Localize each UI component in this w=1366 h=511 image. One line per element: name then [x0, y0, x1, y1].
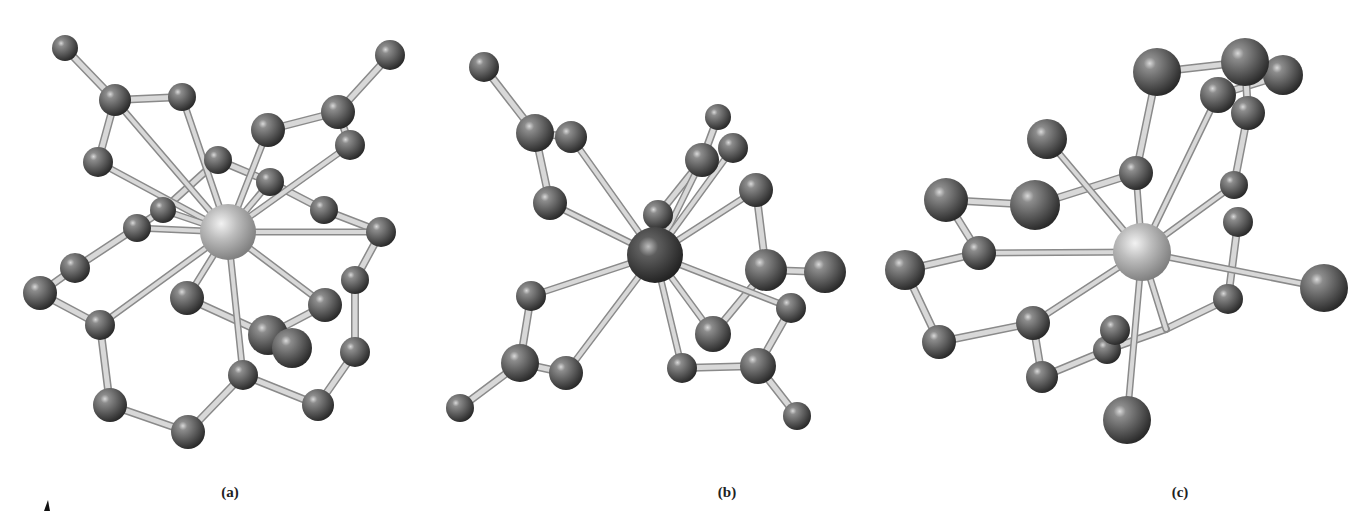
atom: [170, 281, 204, 315]
atom: [739, 173, 773, 207]
atom: [1133, 48, 1181, 96]
atom: [1026, 361, 1058, 393]
atom: [1200, 77, 1236, 113]
panel-b-structure: [446, 52, 846, 430]
atom: [885, 250, 925, 290]
atom: [1213, 284, 1243, 314]
atom: [718, 133, 748, 163]
atom: [171, 415, 205, 449]
atom: [1016, 306, 1050, 340]
atom: [251, 113, 285, 147]
bond-highlight: [75, 210, 163, 268]
atom: [1100, 315, 1130, 345]
atom: [1221, 38, 1269, 86]
atom: [83, 147, 113, 177]
metal-center-atom: [627, 227, 683, 283]
atom: [366, 217, 396, 247]
atom: [1010, 180, 1060, 230]
atom: [533, 186, 567, 220]
atom: [1103, 396, 1151, 444]
metal-center-atom: [200, 204, 256, 260]
atom: [783, 402, 811, 430]
atom: [308, 288, 342, 322]
atom: [1027, 119, 1067, 159]
atom: [1300, 264, 1348, 312]
atom: [228, 360, 258, 390]
atom: [272, 328, 312, 368]
atom: [516, 281, 546, 311]
atom: [340, 337, 370, 367]
panel-label-b: (b): [718, 484, 736, 501]
atom: [302, 389, 334, 421]
atom: [204, 146, 232, 174]
atom: [740, 348, 776, 384]
atom: [99, 84, 131, 116]
molecular-structures-figure: [0, 0, 1366, 511]
atom: [375, 40, 405, 70]
atom: [321, 95, 355, 129]
atom: [776, 293, 806, 323]
atom: [643, 200, 673, 230]
atom: [924, 178, 968, 222]
atom: [52, 35, 78, 61]
atom: [667, 353, 697, 383]
atom: [922, 325, 956, 359]
metal-center-atom: [1113, 223, 1171, 281]
atom: [1223, 207, 1253, 237]
atom: [310, 196, 338, 224]
atom: [85, 310, 115, 340]
atom: [745, 249, 787, 291]
atom: [555, 121, 587, 153]
atom: [685, 143, 719, 177]
atom: [549, 356, 583, 390]
atom: [341, 266, 369, 294]
atom: [705, 104, 731, 130]
atom: [516, 114, 554, 152]
atom: [1119, 156, 1153, 190]
panel-c-structure: [885, 38, 1348, 444]
atom: [1220, 171, 1248, 199]
atom: [23, 276, 57, 310]
atom: [150, 197, 176, 223]
atom: [469, 52, 499, 82]
panel-a-structure: [23, 35, 405, 449]
panel-label-c: (c): [1172, 484, 1189, 501]
panel-label-a: (a): [221, 484, 239, 501]
atom: [695, 316, 731, 352]
atom: [168, 83, 196, 111]
atom: [335, 130, 365, 160]
atom: [93, 388, 127, 422]
atom: [804, 251, 846, 293]
atom: [1263, 55, 1303, 95]
atom: [60, 253, 90, 283]
corner-mark: [44, 500, 50, 511]
atom: [256, 168, 284, 196]
atom: [123, 214, 151, 242]
atom: [1231, 96, 1265, 130]
atom: [501, 344, 539, 382]
atom: [962, 236, 996, 270]
atom: [446, 394, 474, 422]
